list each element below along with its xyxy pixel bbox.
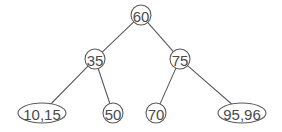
edge-n75-n70 bbox=[160, 68, 176, 104]
edge-n35-n10_15 bbox=[51, 66, 88, 104]
node-label: 50 bbox=[105, 106, 122, 123]
edge-n60-n35 bbox=[102, 22, 134, 52]
tree-diagram: 60357510,15507095,96 bbox=[0, 0, 282, 132]
edges-layer bbox=[51, 22, 232, 104]
edge-n75-n95_96 bbox=[188, 66, 232, 104]
tree-canvas: 60357510,15507095,96 bbox=[0, 0, 282, 132]
edge-n35-n50 bbox=[98, 68, 110, 103]
tree-node-n60: 60 bbox=[131, 5, 151, 25]
node-label: 35 bbox=[87, 52, 104, 69]
tree-node-n75: 75 bbox=[170, 49, 190, 69]
tree-node-n95_96: 95,96 bbox=[218, 103, 266, 123]
node-label: 60 bbox=[133, 8, 150, 25]
node-label: 95,96 bbox=[223, 106, 261, 123]
node-label: 70 bbox=[148, 106, 165, 123]
node-label: 10,15 bbox=[23, 106, 61, 123]
tree-node-n10_15: 10,15 bbox=[18, 103, 66, 123]
tree-node-n35: 35 bbox=[85, 49, 105, 69]
node-label: 75 bbox=[172, 52, 189, 69]
nodes-layer: 60357510,15507095,96 bbox=[18, 5, 266, 123]
edge-n60-n75 bbox=[148, 22, 174, 51]
tree-node-n70: 70 bbox=[146, 103, 166, 123]
tree-node-n50: 50 bbox=[103, 103, 123, 123]
